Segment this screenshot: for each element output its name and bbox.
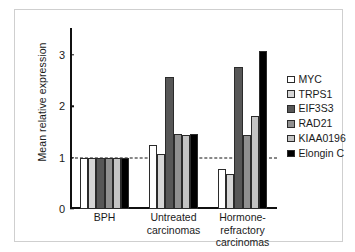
- bar-set: [70, 32, 139, 209]
- bar-myc: [149, 145, 157, 209]
- x-axis-label: Untreatedcarcinomas: [139, 211, 208, 249]
- legend-item: TRPS1: [287, 87, 355, 102]
- x-axis-label-line: Hormone-refractory: [208, 211, 277, 236]
- bar-group: [70, 32, 139, 209]
- bar-rad21: [243, 135, 251, 209]
- bar-myc: [80, 158, 88, 209]
- legend-item: EIF3S3: [287, 102, 355, 117]
- x-axis-label-line: carcinomas: [208, 236, 277, 249]
- bar-trps1: [157, 154, 165, 209]
- figure-frame: Mean relative expression 0123 BPHUntreat…: [14, 9, 343, 242]
- legend-item: RAD21: [287, 116, 355, 131]
- legend-item: MYC: [287, 72, 355, 87]
- legend-label: MYC: [299, 74, 322, 85]
- bar-eif3s3: [96, 158, 104, 209]
- y-tick-label: 1: [39, 152, 70, 163]
- x-axis-label-line: Untreated: [139, 211, 208, 224]
- bar-trps1: [226, 174, 234, 209]
- bar-set: [208, 32, 277, 209]
- legend-item: KIAA0196: [287, 131, 355, 146]
- legend-label: KIAA0196: [299, 133, 346, 144]
- bar-elongin-c: [190, 134, 198, 209]
- bar-trps1: [88, 158, 96, 209]
- bar-group: [208, 32, 277, 209]
- bar-set: [139, 32, 208, 209]
- bar-group: [139, 32, 208, 209]
- legend-label: EIF3S3: [299, 103, 334, 114]
- x-axis-label: BPH: [70, 211, 139, 249]
- bar-elongin-c: [259, 51, 267, 209]
- bar-groups: [70, 32, 277, 209]
- bar-myc: [218, 169, 226, 209]
- legend-swatch-icon: [287, 150, 295, 158]
- legend-swatch-icon: [287, 90, 295, 98]
- y-tick-label: 0: [39, 204, 70, 215]
- legend-label: Elongin C: [299, 148, 345, 159]
- bar-rad21: [174, 134, 182, 209]
- bar-eif3s3: [234, 67, 242, 209]
- bar-kiaa0196: [113, 158, 121, 209]
- figure-panel: Mean relative expression 0123 BPHUntreat…: [0, 0, 355, 252]
- x-axis-label-line: carcinomas: [139, 224, 208, 237]
- legend-label: TRPS1: [299, 89, 333, 100]
- y-tick-label: 2: [39, 101, 70, 112]
- x-axis-label-line: BPH: [70, 211, 139, 224]
- bar-rad21: [105, 158, 113, 209]
- x-axis-label: Hormone-refractorycarcinomas: [208, 211, 277, 249]
- legend-swatch-icon: [287, 135, 295, 143]
- plot-area: 0123 BPHUntreatedcarcinomasHormone-refra…: [70, 32, 277, 209]
- legend: MYCTRPS1EIF3S3RAD21KIAA0196Elongin C: [287, 72, 355, 161]
- legend-swatch-icon: [287, 76, 295, 84]
- legend-swatch-icon: [287, 120, 295, 128]
- legend-item: Elongin C: [287, 146, 355, 161]
- legend-label: RAD21: [299, 118, 333, 129]
- bar-elongin-c: [121, 158, 129, 209]
- y-tick-label: 3: [39, 50, 70, 61]
- legend-swatch-icon: [287, 105, 295, 113]
- bar-kiaa0196: [251, 116, 259, 209]
- x-axis-labels: BPHUntreatedcarcinomasHormone-refractory…: [70, 211, 277, 249]
- bar-eif3s3: [165, 77, 173, 209]
- bar-kiaa0196: [182, 135, 190, 209]
